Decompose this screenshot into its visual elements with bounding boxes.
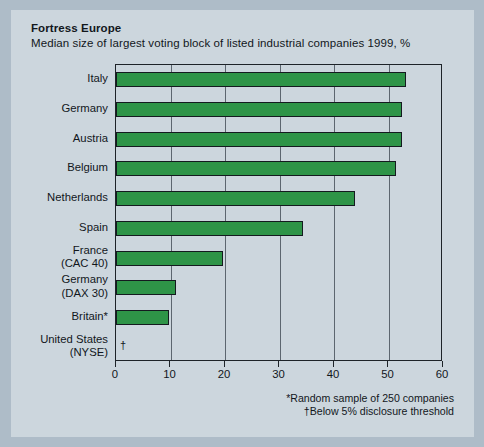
bar bbox=[116, 72, 406, 87]
bar bbox=[116, 251, 223, 266]
category-label-line: United States bbox=[40, 333, 108, 347]
axis-tick-label-60: 60 bbox=[436, 368, 449, 380]
category-label: United States(NYSE) bbox=[40, 333, 108, 360]
category-label-line: Italy bbox=[87, 72, 108, 86]
category-label-line: France bbox=[61, 244, 108, 258]
category-label-line: (DAX 30) bbox=[62, 287, 108, 301]
bar bbox=[116, 102, 402, 117]
chart-figure: Fortress Europe Median size of largest v… bbox=[0, 0, 484, 447]
category-label-line: Germany bbox=[62, 273, 108, 287]
value-axis: 0102030405060 bbox=[115, 361, 442, 385]
footnote-sample: *Random sample of 250 companies bbox=[286, 392, 454, 404]
axis-tick-label-50: 50 bbox=[381, 368, 394, 380]
axis-tick-30 bbox=[278, 361, 279, 367]
axis-tick-50 bbox=[387, 361, 388, 367]
bar bbox=[116, 221, 303, 236]
plot-area: † bbox=[115, 64, 442, 361]
axis-tick-label-10: 10 bbox=[163, 368, 176, 380]
category-label: Britain* bbox=[72, 310, 108, 324]
category-label: Netherlands bbox=[47, 191, 108, 205]
axis-tick-60 bbox=[442, 361, 443, 367]
footnote-threshold: †Below 5% disclosure threshold bbox=[304, 405, 454, 417]
chart-subtitle: Median size of largest voting block of l… bbox=[31, 37, 410, 49]
category-label-line: (CAC 40) bbox=[61, 257, 108, 271]
category-label-line: Austria bbox=[73, 132, 108, 146]
axis-tick-label-20: 20 bbox=[218, 368, 231, 380]
chart-title: Fortress Europe bbox=[31, 22, 121, 34]
bar bbox=[116, 191, 355, 206]
bar bbox=[116, 280, 176, 295]
bar bbox=[116, 161, 396, 176]
category-label: Germany(DAX 30) bbox=[62, 273, 108, 300]
bar bbox=[116, 310, 169, 325]
category-label-line: Germany bbox=[62, 102, 108, 116]
axis-tick-label-30: 30 bbox=[272, 368, 285, 380]
category-label: Spain bbox=[79, 221, 108, 235]
axis-tick-0 bbox=[115, 361, 116, 367]
category-label-line: Belgium bbox=[67, 161, 108, 175]
category-label: Belgium bbox=[67, 161, 108, 175]
category-label: Italy bbox=[87, 72, 108, 86]
category-label-line: (NYSE) bbox=[40, 346, 108, 360]
axis-tick-20 bbox=[224, 361, 225, 367]
category-label: Germany bbox=[62, 102, 108, 116]
axis-tick-label-0: 0 bbox=[112, 368, 118, 380]
category-label-line: Netherlands bbox=[47, 191, 108, 205]
category-label-line: Spain bbox=[79, 221, 108, 235]
bar bbox=[116, 132, 402, 147]
axis-tick-label-40: 40 bbox=[327, 368, 340, 380]
category-label-line: Britain* bbox=[72, 310, 108, 324]
category-label: Austria bbox=[73, 132, 108, 146]
category-label: France(CAC 40) bbox=[61, 244, 108, 271]
axis-tick-40 bbox=[333, 361, 334, 367]
category-axis-labels: ItalyGermanyAustriaBelgiumNetherlandsSpa… bbox=[0, 64, 108, 361]
axis-tick-10 bbox=[169, 361, 170, 367]
no-data-marker: † bbox=[120, 339, 126, 351]
